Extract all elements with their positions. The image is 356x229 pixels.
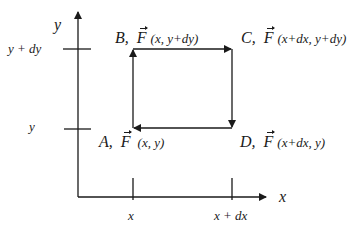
point-a-letter: A, (99, 133, 113, 150)
point-a-coords: (x, y) (138, 135, 165, 150)
point-d-label: D, F (x+dx, y) (240, 134, 325, 150)
point-c-coords: (x+dx, y+dy) (277, 31, 346, 46)
x-plus-dx-tick-label: x + dx (214, 209, 247, 222)
x-tick-label: x (128, 209, 134, 222)
vector-f-symbol: F (264, 134, 274, 150)
point-b-coords: (x, y+dy) (151, 31, 199, 46)
circulation-diagram: y x y + dy y x x + dx B, F (x, y+dy) C, … (0, 0, 356, 229)
vector-f-symbol: F (137, 30, 147, 46)
point-a-label: A, F (x, y) (99, 134, 164, 150)
point-b-letter: B, (115, 29, 129, 46)
vector-f-symbol: F (264, 30, 274, 46)
circulation-path (133, 49, 232, 128)
vector-f-symbol: F (121, 134, 131, 150)
point-d-letter: D, (240, 133, 256, 150)
y-axis-label: y (54, 17, 61, 33)
point-d-coords: (x+dx, y) (277, 135, 325, 150)
x-axis-label: x (279, 189, 286, 205)
point-c-label: C, F (x+dx, y+dy) (241, 30, 346, 46)
y-plus-dy-tick-label: y + dy (8, 42, 41, 55)
y-tick-label: y (29, 120, 35, 133)
point-b-label: B, F (x, y+dy) (115, 30, 198, 46)
point-c-letter: C, (241, 29, 256, 46)
